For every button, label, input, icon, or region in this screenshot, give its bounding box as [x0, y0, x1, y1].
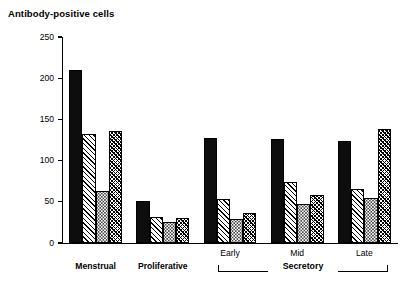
x-axis-line [62, 243, 398, 244]
bar-late-bar-3 [364, 198, 377, 243]
bar-proliferative-bar-2 [150, 217, 163, 243]
bar-early-bar-2 [217, 199, 230, 243]
x-axis-label-proliferative: Proliferative [113, 262, 213, 271]
bars-layer [62, 37, 398, 243]
bar-proliferative-bar-3 [163, 222, 176, 243]
bar-late-bar-1 [338, 141, 351, 243]
bar-menstrual-bar-1 [69, 70, 82, 243]
bar-mid-bar-4 [310, 195, 323, 243]
bar-menstrual-bar-4 [109, 131, 122, 243]
bar-early-bar-1 [204, 138, 217, 243]
x-axis-label-late: Late [314, 249, 408, 258]
bar-mid-bar-1 [271, 139, 284, 243]
bar-late-bar-2 [351, 189, 364, 243]
chart-container: Antibody-positive cells 050100150200250 … [0, 0, 408, 283]
bar-mid-bar-3 [297, 204, 310, 243]
y-tick-label: 0 [49, 239, 54, 248]
bar-late-bar-4 [378, 129, 391, 243]
y-tick-label: 250 [40, 33, 54, 42]
y-tick-label: 150 [40, 115, 54, 124]
bar-mid-bar-2 [284, 182, 297, 243]
y-tick-label: 100 [40, 156, 54, 165]
bar-early-bar-3 [230, 219, 243, 243]
bar-menstrual-bar-2 [82, 134, 95, 243]
bar-menstrual-bar-3 [96, 191, 109, 243]
bar-early-bar-4 [243, 213, 256, 243]
y-tick-label: 200 [40, 74, 54, 83]
bar-proliferative-bar-1 [136, 201, 149, 243]
secretory-group-label: Secretory [218, 262, 388, 271]
bar-proliferative-bar-4 [176, 218, 189, 243]
chart-title: Antibody-positive cells [8, 8, 114, 19]
y-tick-label: 50 [44, 197, 54, 206]
